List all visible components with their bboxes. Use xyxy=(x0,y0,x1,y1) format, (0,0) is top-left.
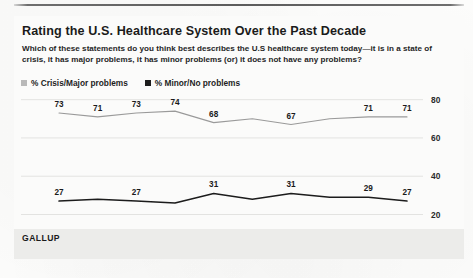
data-point-label: 68 xyxy=(209,110,218,119)
footer-band xyxy=(14,229,464,259)
y-axis-tick-label: 40 xyxy=(431,171,440,181)
top-horizontal-rule xyxy=(14,4,464,6)
data-point-label: 29 xyxy=(364,184,373,193)
data-point-label: 71 xyxy=(364,104,373,113)
data-point-label: 71 xyxy=(402,104,411,113)
chart-legend: % Crisis/Major problems % Minor/No probl… xyxy=(21,78,240,88)
data-point-label: 71 xyxy=(93,104,102,113)
chart-plot-svg xyxy=(21,92,457,226)
data-point-label: 27 xyxy=(132,188,141,197)
chart-title: Rating the U.S. Healthcare System Over t… xyxy=(22,24,366,38)
chart-card: Rating the U.S. Healthcare System Over t… xyxy=(14,16,464,259)
legend-swatch-icon-minor xyxy=(145,80,151,86)
data-point-label: 74 xyxy=(170,98,179,107)
data-point-label: 27 xyxy=(54,188,63,197)
data-point-label: 67 xyxy=(286,112,295,121)
legend-label-minor: % Minor/No problems xyxy=(155,78,240,88)
series-line-crisis-major xyxy=(59,111,407,124)
series-line-minor-no xyxy=(59,193,407,203)
y-axis-tick-label: 80 xyxy=(431,95,440,105)
legend-label-crisis: % Crisis/Major problems xyxy=(31,78,128,88)
source-attribution: GALLUP xyxy=(22,233,60,243)
y-axis-tick-label: 20 xyxy=(431,210,440,220)
data-point-label: 31 xyxy=(209,180,218,189)
data-point-label: 31 xyxy=(286,180,295,189)
series-lines-group xyxy=(59,111,407,203)
legend-swatch-icon-crisis xyxy=(21,80,27,86)
chart-page: Rating the U.S. Healthcare System Over t… xyxy=(0,0,473,278)
y-axis-tick-label: 60 xyxy=(431,133,440,143)
legend-item-crisis-major[interactable]: % Crisis/Major problems xyxy=(21,78,128,88)
data-point-label: 73 xyxy=(132,100,141,109)
chart-subtitle: Which of these statements do you think b… xyxy=(22,43,436,65)
data-point-label: 27 xyxy=(402,188,411,197)
legend-item-minor-no[interactable]: % Minor/No problems xyxy=(145,78,240,88)
plot-area: 7371737468677171272731312927 20406080 xyxy=(21,92,457,226)
data-point-label: 73 xyxy=(54,100,63,109)
